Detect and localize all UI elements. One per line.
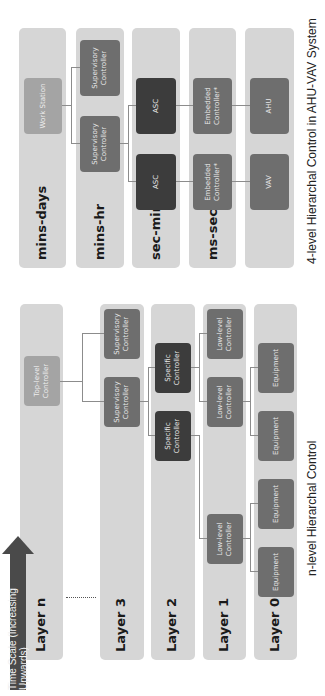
connector — [199, 401, 207, 402]
band-equipment — [245, 28, 294, 268]
connector — [148, 367, 155, 368]
connector — [140, 401, 148, 402]
connector — [250, 503, 258, 504]
connector — [176, 181, 193, 182]
connector — [148, 435, 155, 436]
connector — [250, 504, 251, 572]
diagram-canvas: Layer n Layer 3 Layer 2 Layer 1 Layer 0 … — [0, 0, 325, 696]
ahu-vav-caption: 4-level Hierarchal Control in AHU-VAV Sy… — [305, 18, 319, 264]
connector — [71, 68, 72, 144]
connector — [243, 401, 250, 402]
work-station: Work Station — [24, 78, 62, 134]
layer-2-label: Layer 2 — [164, 598, 179, 652]
sec-min-label: sec-min — [148, 203, 163, 260]
asc-2: ASC — [136, 154, 176, 210]
embedded-controller-2: Embedded Controller* — [193, 154, 232, 210]
ahu-box: AHU — [250, 78, 289, 134]
specific-controller-1: Specific Controller — [155, 343, 191, 393]
supervisory-controller-a: Supervisory Controller — [80, 40, 120, 96]
mins-days-label: mins-days — [34, 186, 49, 260]
supervisory-controller-b: Supervisory Controller — [80, 116, 120, 172]
supervisory-controller-1: Supervisory Controller — [104, 309, 140, 359]
connector — [199, 538, 207, 539]
connector — [128, 105, 136, 106]
connector — [250, 571, 258, 572]
connector — [71, 67, 80, 68]
connector — [128, 181, 136, 182]
connector — [199, 334, 200, 402]
connector — [82, 333, 104, 334]
low-level-controller-1: Low-level Controller — [207, 309, 243, 359]
equipment-3: Equipment — [258, 479, 294, 529]
layer-0-label: Layer 0 — [267, 598, 282, 652]
connector — [176, 105, 193, 106]
connector — [199, 333, 207, 334]
low-level-controller-2: Low-level Controller — [207, 377, 243, 427]
connector — [128, 106, 129, 182]
connector — [243, 538, 250, 539]
specific-controller-2: Specific Controller — [155, 411, 191, 461]
equipment-1: Equipment — [258, 343, 294, 393]
vav-box: VAV — [250, 154, 289, 210]
layer-n-label: Layer n — [33, 598, 48, 652]
supervisory-controller-2: Supervisory Controller — [104, 377, 140, 427]
layer-1-label: Layer 1 — [216, 598, 231, 652]
connector — [232, 105, 250, 106]
top-level-controller: Top-level Controller — [24, 356, 60, 406]
asc-1: ASC — [136, 78, 176, 134]
connector — [148, 368, 149, 436]
connector — [82, 401, 104, 402]
connector — [120, 143, 128, 144]
connector — [71, 143, 80, 144]
connector — [82, 334, 83, 402]
connector — [191, 367, 199, 368]
connector — [250, 367, 258, 368]
time-scale-arrow: Time Scale (Increasing Upwards) — [10, 554, 26, 690]
mins-hr-label: mins-hr — [92, 204, 107, 260]
equipment-2: Equipment — [258, 411, 294, 461]
layer-3-label: Layer 3 — [113, 598, 128, 652]
connector — [250, 368, 251, 436]
embedded-controller-1: Embedded Controller* — [193, 78, 232, 134]
connector — [232, 181, 250, 182]
low-level-controller-3: Low-level Controller — [207, 514, 243, 564]
connector — [250, 435, 258, 436]
n-level-caption: n-level Hierarchal Control — [305, 441, 319, 576]
connector — [62, 105, 71, 106]
connector — [60, 381, 82, 382]
ms-sec-label: ms-sec — [205, 209, 220, 260]
arrow-head-icon — [2, 536, 34, 554]
dotted-separator — [66, 597, 96, 598]
connector — [199, 435, 200, 539]
equipment-4: Equipment — [258, 547, 294, 597]
connector — [191, 435, 199, 436]
